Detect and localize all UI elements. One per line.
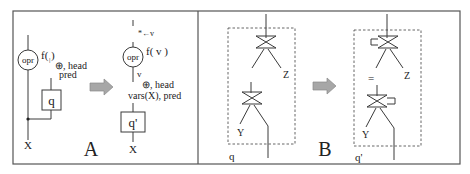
operator-label: opr (22, 55, 34, 65)
panel-label-b: B (318, 138, 331, 160)
top-join-comb-icon (371, 39, 378, 45)
panel-label-a: A (84, 138, 99, 160)
subquery-label: q (48, 93, 55, 108)
top-join-left-edge (376, 49, 386, 68)
panel-b-after: Z = Y q' (354, 14, 421, 163)
junction-dot (26, 117, 29, 120)
output-label: X (129, 143, 137, 155)
bottom-join-left-edge (366, 108, 376, 127)
bottom-join-right-edge (380, 108, 394, 128)
bottom-join-output-label: Y (237, 127, 244, 138)
subquery-label: q' (129, 115, 138, 130)
transform-arrow-icon (313, 78, 336, 94)
edge-label: v (137, 69, 142, 79)
bottom-join-right-edge (254, 105, 268, 126)
output-label: X (24, 139, 32, 151)
transform-arrow-icon (90, 79, 113, 95)
annotation-line2: pred (59, 69, 77, 80)
panel-a-before: opr f( ) | ⊕, head pred q X (18, 35, 87, 151)
subquery-label: q (229, 150, 235, 162)
top-join-left-edge (252, 49, 264, 68)
top-join-output-label: Z (283, 69, 289, 80)
figure-frame (13, 11, 460, 164)
bottom-join-icon (242, 92, 262, 104)
top-join-right-edge (390, 49, 403, 68)
operator-label: opr (127, 52, 139, 62)
assignment-label: *←v (138, 29, 154, 38)
panel-b-before: Z Y q (228, 14, 295, 162)
function-cursor: | (49, 56, 50, 64)
annotation-line1: ⊕, head (142, 79, 174, 90)
diagram-canvas: opr f( ) | ⊕, head pred q X *←v opr f( v… (0, 0, 470, 174)
top-join-icon (378, 36, 398, 48)
annotation-line2: vars(X), pred (128, 90, 181, 102)
bottom-join-output-label: Y (362, 129, 369, 140)
top-join-output-label: Z (404, 70, 410, 81)
bottom-join-comb-icon (387, 98, 395, 104)
subquery-output-edge (28, 110, 51, 119)
top-join-right-edge (268, 49, 281, 68)
bottom-join-left-edge (240, 105, 250, 124)
panel-a-after: *←v opr f( v ) v ⊕, head vars(X), pred q… (121, 20, 181, 155)
subquery-label: q' (355, 151, 363, 163)
equality-label: = (368, 72, 374, 84)
bottom-join-icon (367, 95, 387, 107)
function-label: f( v ) (146, 45, 168, 58)
